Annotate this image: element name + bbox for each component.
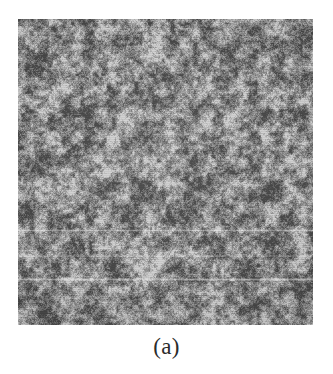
- figure-panel: (a): [0, 0, 333, 374]
- micrograph-canvas: [18, 19, 313, 325]
- figure-caption: (a): [0, 332, 333, 362]
- micrograph-image: [18, 19, 313, 325]
